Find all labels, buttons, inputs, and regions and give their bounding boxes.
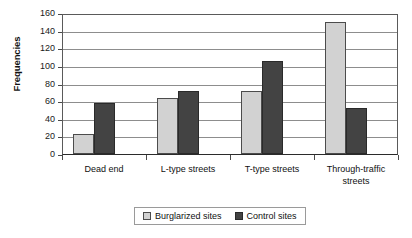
x-tick-mark (314, 155, 315, 160)
y-tick-label: 80 (45, 80, 55, 89)
x-tick-mark (230, 155, 231, 160)
y-tick-label: 20 (45, 132, 55, 141)
plot-area (62, 14, 398, 155)
legend-label: Burglarized sites (155, 211, 222, 221)
bar-0-1 (94, 103, 115, 154)
bar-1-0 (157, 98, 178, 154)
bar-2-1 (262, 61, 283, 154)
bar-3-0 (325, 22, 346, 154)
legend: Burglarized sitesControl sites (134, 207, 306, 225)
gridline (63, 32, 397, 33)
y-tick-label: 60 (45, 97, 55, 106)
legend-entry-0: Burglarized sites (143, 211, 222, 221)
legend-entry-1: Control sites (235, 211, 297, 221)
x-tick-mark (62, 155, 63, 160)
y-axis-title: Frequencies (10, 14, 24, 114)
legend-swatch-icon (143, 212, 151, 220)
y-tick-label: 0 (50, 150, 55, 159)
y-tick-label: 140 (40, 27, 55, 36)
x-category-label: Through-traffic streets (314, 164, 398, 187)
y-tick-label: 160 (40, 9, 55, 18)
legend-swatch-icon (235, 212, 243, 220)
x-category-label: Dead end (62, 164, 146, 176)
gridline (63, 49, 397, 50)
x-tick-mark (146, 155, 147, 160)
bar-chart: Frequencies 020406080100120140160 Dead e… (0, 0, 412, 238)
y-tick-label: 100 (40, 62, 55, 71)
y-tick-label: 120 (40, 44, 55, 53)
bar-1-1 (178, 91, 199, 154)
y-tick-label: 40 (45, 115, 55, 124)
legend-label: Control sites (247, 211, 297, 221)
x-category-label: T-type streets (230, 164, 314, 176)
bar-0-0 (73, 134, 94, 154)
bar-3-1 (346, 108, 367, 154)
gridline (63, 67, 397, 68)
x-category-label: L-type streets (146, 164, 230, 176)
x-tick-mark (398, 155, 399, 160)
bar-2-0 (241, 91, 262, 154)
gridline (63, 85, 397, 86)
